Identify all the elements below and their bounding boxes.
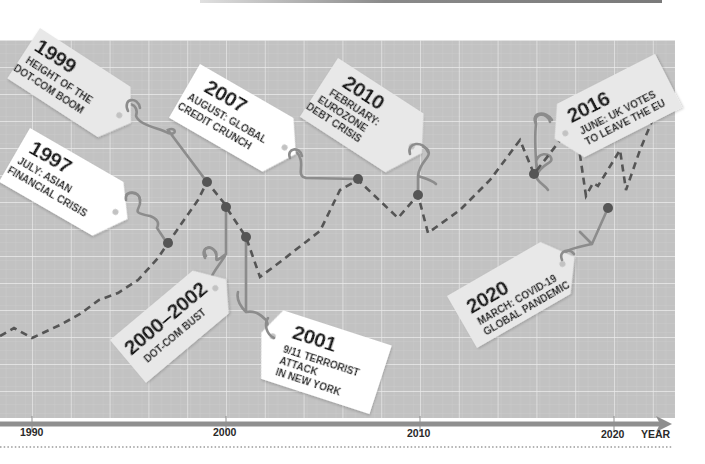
marker-2016[interactable]	[529, 169, 539, 179]
marker-2001[interactable]	[241, 232, 251, 242]
marker-2007[interactable]	[353, 174, 363, 184]
marker-2020[interactable]	[603, 203, 613, 213]
x-axis-title: YEAR	[641, 428, 671, 440]
marker-2000[interactable]	[221, 202, 231, 212]
x-tick-2010: 2010	[407, 427, 431, 439]
marker-1997[interactable]	[163, 238, 173, 248]
x-axis: 1990 2000 2010 2020 YEAR	[0, 416, 672, 447]
marker-2010[interactable]	[413, 190, 423, 200]
x-tick-2020: 2020	[601, 428, 625, 440]
timeline-chart: 1990 2000 2010 2020 YEAR	[0, 0, 705, 464]
x-tick-1990: 1990	[20, 426, 44, 438]
x-tick-2000: 2000	[213, 426, 237, 438]
marker-1999[interactable]	[202, 177, 212, 187]
